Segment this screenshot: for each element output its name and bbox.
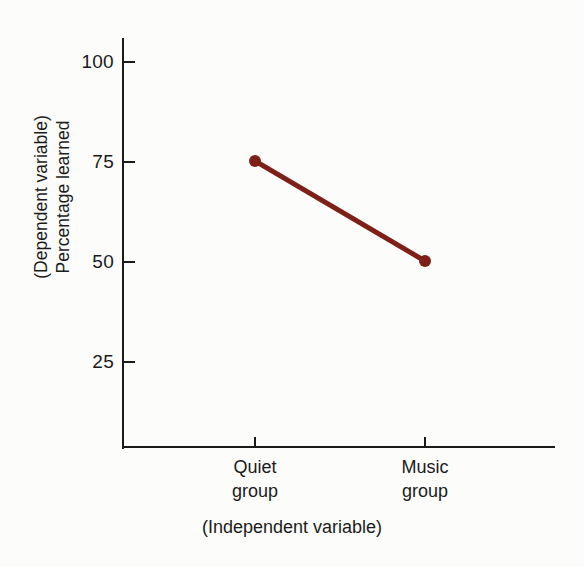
y-axis-line [122,38,124,449]
chart-figure: 100 75 50 25 (Dependent variable) Percen… [0,0,584,567]
data-point-group [249,155,431,267]
x-axis-label-music-group: Music group [345,455,505,503]
x-axis-tick-quiet-group [254,437,256,447]
x-axis-tick-music-group [424,437,426,447]
x-axis-label-music-group-line2: group [345,479,505,503]
x-axis-caption: (Independent variable) [0,517,584,538]
y-axis-caption: (Dependent variable) Percentage learned [30,67,74,327]
y-axis-caption-line2: Percentage learned [52,67,74,327]
y-axis-tick-100 [124,61,135,63]
data-line-percentage-learned [255,161,425,261]
y-axis-tick-25 [124,361,135,363]
y-axis-tick-75 [124,161,135,163]
data-point-quiet-group [249,155,261,167]
x-axis-label-quiet-group-line2: group [175,479,335,503]
y-axis-tick-label-25-wrap: 25 [10,351,114,373]
y-axis-tick-50 [124,261,135,263]
data-point-music-group [419,255,431,267]
y-axis-caption-line1: (Dependent variable) [30,67,52,327]
x-axis-label-quiet-group-line1: Quiet [175,455,335,479]
x-axis-label-quiet-group: Quiet group [175,455,335,503]
x-axis-label-music-group-line1: Music [345,455,505,479]
x-axis-line [122,446,555,448]
y-axis-tick-label-25: 25 [14,351,114,373]
